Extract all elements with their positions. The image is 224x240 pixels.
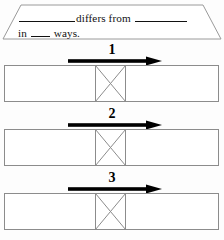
- step-number-2: 2: [0, 107, 224, 121]
- header-trapezoid: differs from in ways.: [0, 2, 224, 42]
- header-text-ways: ways.: [54, 27, 80, 39]
- three-cell-box-1: [0, 65, 224, 103]
- comparison-section-1: 1: [0, 44, 224, 102]
- box-cell-left-3: [5, 194, 96, 230]
- blank-subject-a[interactable]: [19, 11, 75, 22]
- arrow-area-2: 2: [0, 108, 224, 130]
- box-cell-right-1: [126, 66, 219, 102]
- step-number-1: 1: [0, 43, 224, 57]
- blank-count[interactable]: [31, 26, 50, 37]
- header-sentence: differs from in ways.: [18, 11, 210, 40]
- worksheet-page: differs from in ways. 1 2: [0, 0, 224, 240]
- box-cell-left-2: [5, 130, 96, 166]
- comparison-section-2: 2: [0, 108, 224, 166]
- comparison-section-3: 3: [0, 172, 224, 230]
- header-text-in: in: [18, 27, 27, 39]
- three-cell-box-3: [0, 193, 224, 231]
- arrow-area-1: 1: [0, 44, 224, 66]
- box-cell-right-2: [126, 130, 219, 166]
- header-text-differs-from: differs from: [76, 12, 131, 24]
- blank-subject-b[interactable]: [135, 11, 187, 22]
- box-cell-right-3: [126, 194, 219, 230]
- box-cell-left-1: [5, 66, 96, 102]
- step-number-3: 3: [0, 171, 224, 185]
- three-cell-box-2: [0, 129, 224, 167]
- arrow-area-3: 3: [0, 172, 224, 194]
